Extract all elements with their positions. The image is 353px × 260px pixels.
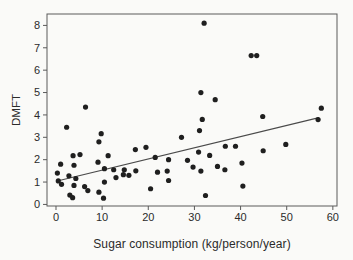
data-point <box>122 167 127 172</box>
data-point <box>155 170 160 175</box>
data-point <box>153 155 158 160</box>
data-point <box>71 163 76 168</box>
data-point <box>213 97 218 102</box>
data-point <box>283 142 288 147</box>
y-tick-label: 5 <box>34 86 40 98</box>
data-point <box>202 21 207 26</box>
data-point <box>102 179 107 184</box>
data-point <box>83 104 88 109</box>
data-point <box>239 160 244 165</box>
x-tick-label: 60 <box>327 211 339 223</box>
data-point <box>222 167 227 172</box>
data-point <box>126 173 131 178</box>
data-point <box>113 175 118 180</box>
data-point <box>185 158 190 163</box>
data-point <box>166 157 171 162</box>
data-point <box>101 196 106 201</box>
data-point <box>55 171 60 176</box>
data-point <box>70 195 75 200</box>
data-point <box>197 128 202 133</box>
x-tick-label: 40 <box>234 211 246 223</box>
data-point <box>200 117 205 122</box>
y-tick-label: 8 <box>34 19 40 31</box>
data-point <box>179 135 184 140</box>
x-tick-label: 50 <box>281 211 293 223</box>
data-point <box>64 125 69 130</box>
y-tick-label: 2 <box>34 153 40 165</box>
data-point <box>111 167 116 172</box>
data-point <box>58 162 63 167</box>
data-point <box>71 183 76 188</box>
data-point <box>319 106 324 111</box>
data-point <box>166 178 171 183</box>
data-point <box>96 190 101 195</box>
scatter-plot-figure: 0102030405060012345678 Sugar consumption… <box>0 0 353 260</box>
data-point <box>207 153 212 158</box>
data-point <box>70 153 75 158</box>
data-point <box>99 131 104 136</box>
data-point <box>240 183 245 188</box>
data-point <box>133 168 138 173</box>
data-point <box>196 149 201 154</box>
data-point <box>260 114 265 119</box>
x-axis-title: Sugar consumption (kg/person/year) <box>47 237 337 251</box>
data-point <box>165 168 170 173</box>
data-point <box>233 144 238 149</box>
data-point <box>77 152 82 157</box>
data-point <box>106 153 111 158</box>
data-point <box>102 166 107 171</box>
data-point <box>198 90 203 95</box>
data-point <box>315 117 320 122</box>
trend-line <box>58 118 319 181</box>
data-point <box>133 147 138 152</box>
data-point <box>121 172 126 177</box>
x-tick-label: 20 <box>142 211 154 223</box>
data-point <box>82 184 87 189</box>
data-point <box>203 193 208 198</box>
data-point <box>96 139 101 144</box>
data-point <box>66 173 71 178</box>
y-tick-label: 6 <box>34 64 40 76</box>
y-tick-label: 7 <box>34 42 40 54</box>
data-point <box>254 53 259 58</box>
data-point <box>198 168 203 173</box>
x-tick-label: 10 <box>96 211 108 223</box>
plot-frame <box>47 14 337 206</box>
data-point <box>261 148 266 153</box>
data-point <box>59 182 64 187</box>
data-point <box>215 164 220 169</box>
data-point <box>223 144 228 149</box>
data-point <box>95 160 100 165</box>
data-point <box>143 145 148 150</box>
y-tick-label: 1 <box>34 176 40 188</box>
data-point <box>73 176 78 181</box>
x-tick-label: 0 <box>53 211 59 223</box>
data-point <box>249 53 254 58</box>
x-tick-label: 30 <box>188 211 200 223</box>
plot-area: 0102030405060012345678 <box>0 0 353 260</box>
y-tick-label: 0 <box>34 198 40 210</box>
y-tick-label: 3 <box>34 131 40 143</box>
data-point <box>85 188 90 193</box>
data-point <box>190 164 195 169</box>
data-point <box>148 186 153 191</box>
y-axis-title: DMFT <box>10 83 24 137</box>
y-tick-label: 4 <box>34 109 40 121</box>
